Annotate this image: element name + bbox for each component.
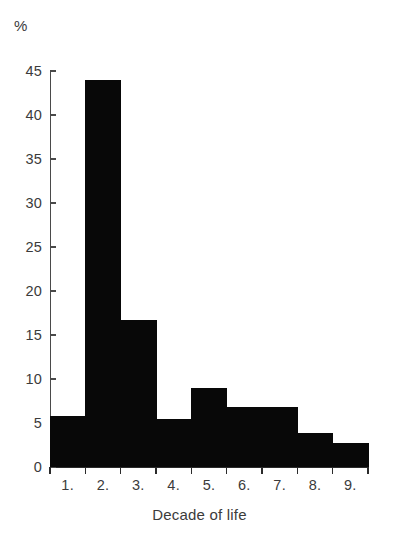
bar <box>191 388 227 467</box>
x-axis-tick <box>85 467 86 474</box>
bar <box>50 416 86 467</box>
y-axis-tick-label: 10 <box>0 372 42 387</box>
bars-layer <box>50 71 368 467</box>
x-axis-tick <box>297 467 298 474</box>
x-axis-tick <box>332 467 333 474</box>
x-axis-tick-label: 2. <box>85 477 121 493</box>
x-axis-tick <box>261 467 262 474</box>
x-axis-tick <box>367 467 368 474</box>
bar <box>156 419 192 467</box>
bar <box>85 80 121 467</box>
x-axis-tick <box>226 467 227 474</box>
y-axis-tick-labels: 051015202530354045 <box>0 0 42 540</box>
bar <box>227 407 263 467</box>
y-axis-tick-label: 5 <box>0 416 42 431</box>
x-axis-tick-label: 6. <box>226 477 262 493</box>
bar <box>333 443 369 467</box>
y-axis-tick-label: 15 <box>0 328 42 343</box>
x-axis-tick <box>49 467 50 474</box>
bar <box>121 320 157 467</box>
histogram-figure: % 051015202530354045 1.2.3.4.5.6.7.8.9. … <box>0 0 399 540</box>
y-axis-tick-label: 20 <box>0 284 42 299</box>
x-axis-tick-label: 3. <box>120 477 156 493</box>
x-axis-tick <box>155 467 156 474</box>
x-axis-tick <box>120 467 121 474</box>
x-axis-tick-label: 8. <box>297 477 333 493</box>
y-axis-tick-label: 25 <box>0 240 42 255</box>
x-axis-tick-label: 7. <box>262 477 298 493</box>
bar <box>297 433 333 467</box>
x-axis-tick <box>191 467 192 474</box>
x-axis-tick-label: 5. <box>191 477 227 493</box>
x-axis-tick-label: 1. <box>50 477 86 493</box>
y-axis-tick-label: 45 <box>0 64 42 79</box>
x-axis-title: Decade of life <box>0 506 399 523</box>
y-axis-tick-label: 30 <box>0 196 42 211</box>
y-axis-tick-label: 35 <box>0 152 42 167</box>
x-axis-tick-label: 9. <box>332 477 368 493</box>
y-axis-tick-label: 0 <box>0 460 42 475</box>
y-axis-tick-label: 40 <box>0 108 42 123</box>
bar <box>262 407 298 467</box>
x-axis-tick-label: 4. <box>156 477 192 493</box>
